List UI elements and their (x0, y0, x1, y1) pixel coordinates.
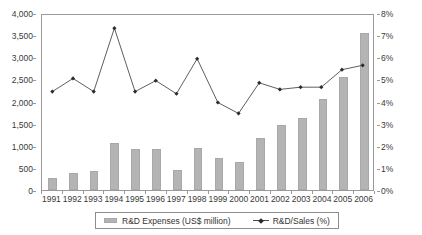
x-axis-tick-mark (291, 191, 292, 194)
left-axis-tick: 1,500 (12, 120, 33, 130)
x-axis-tick-mark (374, 191, 375, 194)
x-axis-label-1998: 1998 (187, 193, 208, 205)
right-axis-tick: 1% (381, 164, 393, 174)
x-axis-label-2003: 2003 (291, 193, 312, 205)
left-axis-tick: 2,500 (12, 75, 33, 85)
x-axis-label-1996: 1996 (145, 193, 166, 205)
x-axis-label-2000: 2000 (228, 193, 249, 205)
left-axis-tick-mark (33, 191, 36, 192)
x-axis-tick-mark (228, 191, 229, 194)
x-axis-tick-mark (332, 191, 333, 194)
right-axis-tick-mark (377, 14, 380, 15)
left-axis-tick: 4,000 (12, 9, 33, 19)
legend-diamond-marker (258, 218, 264, 224)
right-axis-tick: 6% (381, 53, 393, 63)
line-marker-2002 (278, 87, 282, 91)
line-marker-1999 (216, 100, 220, 104)
x-axis-tick-mark (312, 191, 313, 194)
plot-area (41, 14, 374, 191)
legend-entry-2: R&D/Sales (%) (253, 216, 330, 226)
right-axis-tick-mark (377, 191, 380, 192)
rd-expenses-chart: 05001,0001,5002,0002,5003,0003,5004,000 … (0, 0, 422, 235)
legend-label: R&D Expenses (US$ million) (122, 216, 231, 226)
legend-label: R&D/Sales (%) (273, 216, 330, 226)
right-axis-tick: 2% (381, 142, 393, 152)
right-axis-tick-mark (377, 125, 380, 126)
x-axis-label-2002: 2002 (270, 193, 291, 205)
right-axis-tick-mark (377, 103, 380, 104)
legend-bar-swatch-icon (104, 218, 117, 223)
right-axis-tick: 4% (381, 98, 393, 108)
rd-sales-line (52, 28, 362, 113)
x-axis-tick-mark (270, 191, 271, 194)
x-axis-tick-mark (145, 191, 146, 194)
x-axis-label-1991: 1991 (41, 193, 62, 205)
left-axis-tick: 500 (19, 164, 33, 174)
x-axis-tick-mark (208, 191, 209, 194)
x-axis-label-1993: 1993 (83, 193, 104, 205)
right-axis-tick: 7% (381, 31, 393, 41)
x-axis-label-1995: 1995 (124, 193, 145, 205)
legend-line-diamond-icon (253, 217, 269, 224)
x-axis-label-1992: 1992 (62, 193, 83, 205)
left-axis-tick: 1,000 (12, 142, 33, 152)
line-marker-2003 (299, 85, 303, 89)
x-axis-label-2006: 2006 (353, 193, 374, 205)
x-axis-tick-mark (353, 191, 354, 194)
left-axis-tick: 3,000 (12, 53, 33, 63)
right-percent-axis: 0%1%2%3%4%5%6%7%8% (377, 14, 409, 191)
left-axis-tick-mark (33, 169, 36, 170)
x-axis-tick-mark (249, 191, 250, 194)
left-axis-tick-mark (33, 36, 36, 37)
right-axis-tick-mark (377, 36, 380, 37)
left-axis-tick-mark (33, 147, 36, 148)
left-axis-tick-mark (33, 58, 36, 59)
right-axis-tick-mark (377, 58, 380, 59)
right-axis-tick-mark (377, 80, 380, 81)
left-value-axis: 05001,0001,5002,0002,5003,0003,5004,000 (0, 14, 36, 191)
left-axis-tick-mark (33, 80, 36, 81)
line-series-layer (42, 15, 373, 190)
x-axis-tick-mark (62, 191, 63, 194)
x-axis-tick-mark (103, 191, 104, 194)
x-axis-label-2004: 2004 (312, 193, 333, 205)
line-marker-1995 (133, 89, 137, 93)
chart-legend: R&D Expenses (US$ million)R&D/Sales (%) (95, 212, 339, 229)
right-axis-tick-mark (377, 169, 380, 170)
x-axis-label-1994: 1994 (103, 193, 124, 205)
line-marker-1998 (195, 57, 199, 61)
right-axis-tick: 5% (381, 75, 393, 85)
x-axis-label-1999: 1999 (208, 193, 229, 205)
x-axis-tick-mark (83, 191, 84, 194)
left-axis-tick-mark (33, 14, 36, 15)
x-category-axis: 1991199219931994199519961997199819992000… (41, 193, 374, 207)
x-axis-label-1997: 1997 (166, 193, 187, 205)
x-axis-tick-mark (166, 191, 167, 194)
x-axis-label-2005: 2005 (332, 193, 353, 205)
x-axis-label-2001: 2001 (249, 193, 270, 205)
x-axis-tick-mark (187, 191, 188, 194)
left-axis-tick-mark (33, 125, 36, 126)
legend-entry-1: R&D Expenses (US$ million) (104, 216, 231, 226)
right-axis-tick: 0% (381, 186, 393, 196)
line-marker-2006 (361, 63, 365, 67)
left-axis-tick: 3,500 (12, 31, 33, 41)
right-axis-tick-mark (377, 147, 380, 148)
right-axis-tick: 3% (381, 120, 393, 130)
left-axis-tick-mark (33, 103, 36, 104)
right-axis-tick: 8% (381, 9, 393, 19)
x-axis-tick-mark (124, 191, 125, 194)
x-axis-tick-mark (41, 191, 42, 194)
left-axis-tick: 2,000 (12, 98, 33, 108)
line-marker-1994 (112, 26, 116, 30)
